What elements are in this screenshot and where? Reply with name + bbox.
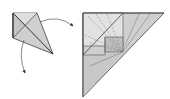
- fold-arrow-right: [40, 19, 73, 26]
- kite-figure: [13, 13, 53, 54]
- origami-diagram: [0, 0, 170, 99]
- fold-arrow-down: [21, 40, 25, 73]
- triangle-figure: [83, 13, 164, 97]
